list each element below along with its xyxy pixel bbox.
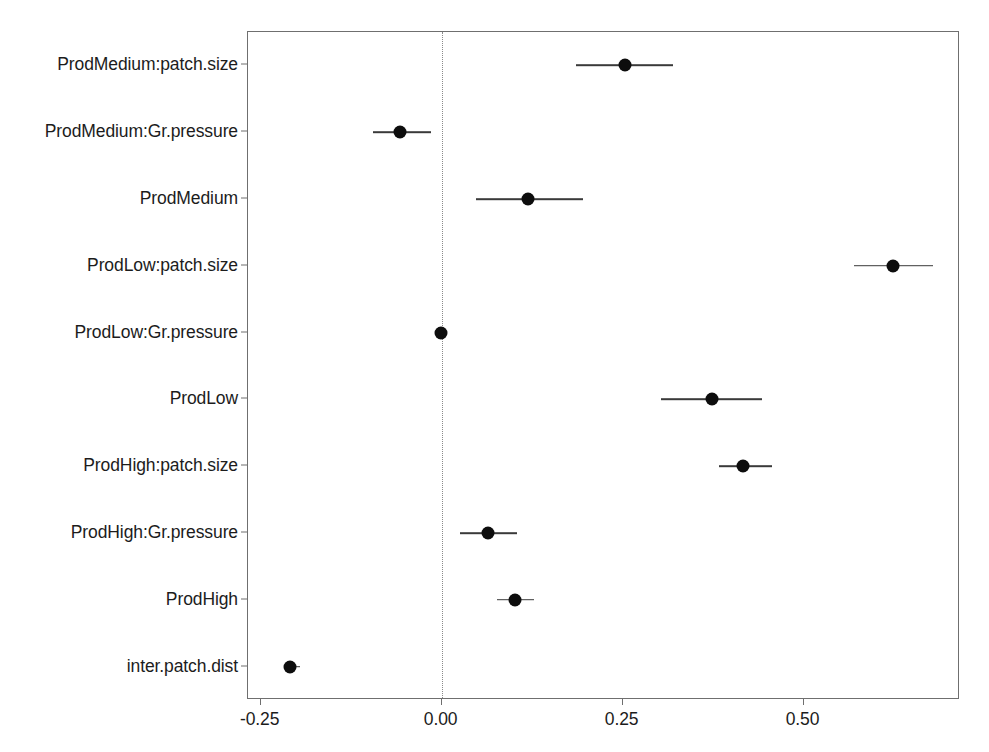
y-axis-label: inter.patch.dist (127, 655, 238, 676)
x-axis-tick-label: 0.50 (786, 709, 820, 730)
x-axis-tick (803, 699, 804, 705)
y-axis-tick (241, 331, 247, 332)
y-axis-tick (241, 264, 247, 265)
estimate-point (481, 527, 494, 540)
y-axis-tick (241, 198, 247, 199)
y-axis-label: ProdLow:Gr.pressure (75, 321, 238, 342)
estimate-point (618, 59, 631, 72)
y-axis-label: ProdHigh:patch.size (83, 455, 238, 476)
y-axis-label: ProdLow (170, 388, 238, 409)
y-axis-tick (241, 131, 247, 132)
x-axis-tick (260, 699, 261, 705)
x-axis-tick-label: -0.25 (240, 709, 279, 730)
y-axis-label: ProdMedium (140, 188, 238, 209)
plot-panel (247, 31, 959, 699)
y-axis-tick (241, 532, 247, 533)
estimate-point (887, 259, 900, 272)
estimate-point (737, 460, 750, 473)
y-axis-label: ProdHigh (166, 588, 238, 609)
y-axis-tick (241, 665, 247, 666)
x-axis-tick (441, 699, 442, 705)
y-axis-tick (241, 465, 247, 466)
x-axis-tick (622, 699, 623, 705)
x-axis-tick-label: 0.25 (605, 709, 639, 730)
y-axis-tick (241, 598, 247, 599)
y-axis-label-group: ProdMedium:patch.sizeProdMedium:Gr.press… (0, 0, 238, 752)
estimate-point (394, 126, 407, 139)
y-axis-label: ProdMedium:Gr.pressure (45, 121, 238, 142)
estimate-point (284, 660, 297, 673)
estimate-point (705, 393, 718, 406)
x-axis-tick-label: 0.00 (424, 709, 458, 730)
estimate-point (434, 326, 447, 339)
y-axis-label: ProdMedium:patch.size (57, 54, 238, 75)
y-axis-label: ProdHigh:Gr.pressure (71, 522, 238, 543)
coefficient-plot-figure: ProdMedium:patch.sizeProdMedium:Gr.press… (0, 0, 989, 752)
y-axis-tick (241, 398, 247, 399)
estimate-point (521, 193, 534, 206)
estimate-point (509, 593, 522, 606)
y-axis-tick (241, 64, 247, 65)
zero-reference-line (442, 32, 443, 698)
y-axis-label: ProdLow:patch.size (87, 254, 238, 275)
